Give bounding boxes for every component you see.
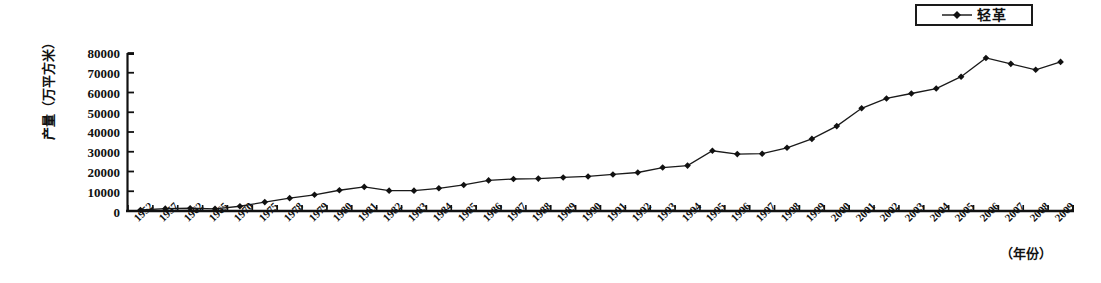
chart-figure: 轻革 产量（万平方米） 80000 70000 60000 50000 4000… [0,0,1101,283]
data-point-marker [635,169,642,176]
data-point-marker [883,95,890,102]
data-point-marker [809,136,816,143]
data-point-marker [386,187,393,194]
data-point-marker [436,185,443,192]
data-point-marker [510,176,517,183]
data-point-marker [411,187,418,194]
data-point-marker [361,184,368,191]
data-point-marker [709,147,716,154]
data-point-marker [336,187,343,194]
data-point-marker [535,175,542,182]
data-point-marker [311,192,318,199]
data-point-marker [784,145,791,152]
data-point-marker [585,173,592,180]
data-point-marker [734,151,741,158]
x-axis-title: （年份） [1000,243,1052,262]
data-point-marker [1008,61,1015,68]
data-point-marker [560,174,567,181]
data-point-marker [759,150,766,157]
data-point-marker [460,182,467,189]
data-point-marker [908,90,915,97]
data-point-marker [485,177,492,184]
series-line-轻革 [140,58,1060,210]
axis-lines [126,53,1074,212]
data-point-marker [610,171,617,178]
plot-area [0,0,1101,283]
data-point-marker [286,195,293,202]
data-point-marker [933,85,940,92]
series-markers [137,55,1064,214]
data-point-marker [684,162,691,169]
data-point-marker [1032,66,1039,73]
data-point-marker [659,164,666,171]
data-point-marker [1057,59,1064,66]
